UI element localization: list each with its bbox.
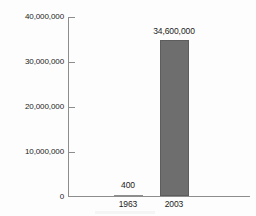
y-axis-tick-20000000 — [69, 107, 75, 108]
y-axis-tick-40000000 — [69, 17, 75, 18]
y-axis-tick-30000000 — [69, 62, 75, 63]
bar-chart: 40,000,000 30,000,000 20,000,000 10,000,… — [0, 0, 256, 216]
y-axis-tick-10000000 — [69, 152, 75, 153]
bar-value-label-2003: 34,600,000 — [129, 26, 219, 36]
x-axis-tick-label-2003: 2003 — [144, 199, 204, 209]
bar-1963 — [114, 195, 143, 196]
x-axis-line — [68, 196, 250, 197]
bar-2003 — [160, 40, 189, 196]
scan-artifact — [95, 211, 155, 214]
